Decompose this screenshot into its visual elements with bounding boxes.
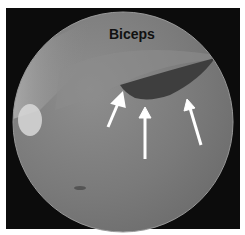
bright-spot: [18, 104, 42, 136]
biceps-label: Biceps: [109, 26, 155, 42]
dark-spot: [74, 186, 86, 190]
